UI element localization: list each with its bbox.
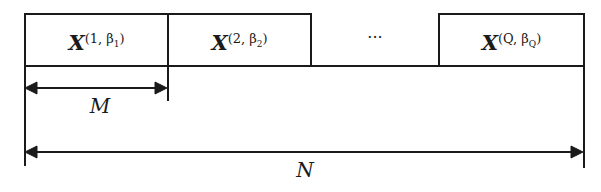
m-arrow-right-head [155,82,167,94]
n-dimension-label: N [275,158,335,182]
n-arrow-left-head [25,146,37,158]
m-dimension-label: M [70,94,130,118]
m-arrow-left-head [25,82,37,94]
n-arrow-right-head [571,146,583,158]
